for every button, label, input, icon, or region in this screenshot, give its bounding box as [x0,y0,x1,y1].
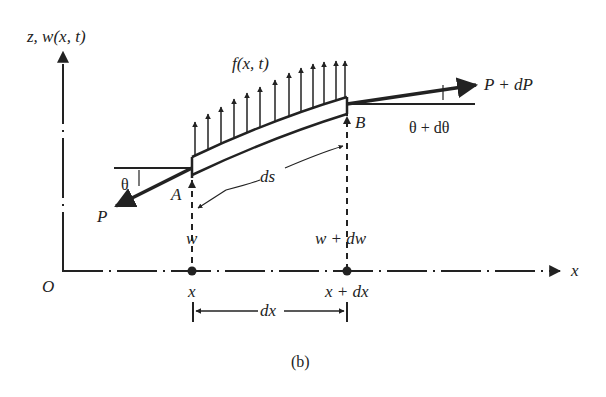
point-a-label: A [170,185,182,204]
arrow-b [343,116,351,124]
point-x-dx [343,267,352,276]
force-p-dp-arrow [347,85,476,104]
theta-dtheta-label: θ + dθ [409,119,449,136]
arrow-a [188,180,196,188]
origin-label: O [42,277,54,296]
force-p-dp-label: P + dP [483,75,533,94]
x-label: x [187,282,196,301]
theta-label: θ [121,176,129,193]
point-b-label: B [355,113,366,132]
w-dw-label: w + dw [315,229,367,248]
load-label: f(x, t) [232,54,269,73]
z-axis-label: z, w(x, t) [26,27,86,46]
force-p-label: P [96,207,107,226]
x-dx-label: x + dx [324,282,369,301]
point-x [188,267,197,276]
dx-label: dx [260,301,277,320]
ds-arrow-left [198,190,226,208]
w-label: w [186,229,198,248]
ds-label: ds [260,167,276,186]
ds-arrow-right [285,146,343,168]
beam-element [192,97,347,178]
beam-element-diagram: z, w(x, t) x O f(x, t) P P + dP θ θ + dθ… [0,0,606,397]
ds-arrow [226,180,260,190]
figure-caption: (b) [291,353,310,371]
x-axis-label: x [570,261,579,280]
